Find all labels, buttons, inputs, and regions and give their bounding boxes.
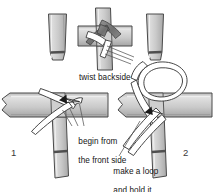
label-loop-line-2: and hold it bbox=[113, 186, 151, 192]
strap-seam-mark-left bbox=[51, 52, 65, 53]
vertical-strap-upper-right bbox=[147, 14, 164, 60]
vertical-strap-lower-left bbox=[52, 112, 69, 178]
inset-twist-backside bbox=[78, 8, 134, 70]
instruction-diagram: twist backside begin from the front side… bbox=[0, 0, 213, 192]
label-make-a-loop-and-hold-it: make a loop and hold it bbox=[104, 158, 158, 192]
label-begin-line-1: begin from bbox=[78, 137, 117, 146]
label-loop-line-1: make a loop bbox=[113, 167, 158, 176]
label-twist-backside: twist backside bbox=[79, 73, 131, 82]
step-number-2: 2 bbox=[183, 147, 188, 158]
step-number-1: 1 bbox=[11, 147, 16, 158]
